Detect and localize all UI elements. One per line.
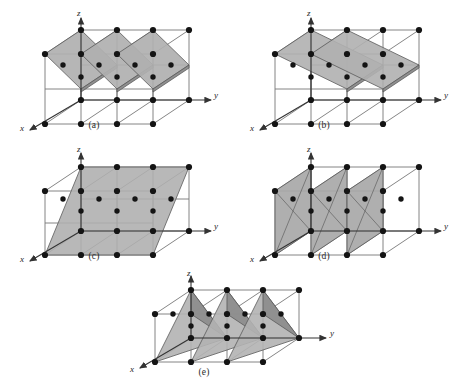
- panel-a-y-label: y: [213, 90, 218, 100]
- crystal-planes-figure: z y x (a): [0, 0, 463, 389]
- panel-b-caption: (b): [304, 120, 344, 130]
- panel-d-diagram: z y x: [238, 145, 453, 263]
- panel-c-x-label: x: [19, 254, 24, 264]
- panel-c-caption: (c): [74, 251, 114, 261]
- panel-d-z-label: z: [306, 144, 311, 154]
- panel-d-y-label: y: [443, 221, 448, 231]
- panel-b: z y x (b): [238, 8, 453, 133]
- panel-b-y-label: y: [443, 90, 448, 100]
- panel-a-caption: (a): [74, 120, 114, 130]
- panel-d-x-label: x: [249, 254, 254, 264]
- panel-d-caption: (d): [304, 251, 344, 261]
- panel-e-caption: (e): [184, 367, 224, 377]
- panel-b-x-label: x: [249, 123, 254, 133]
- panel-e-x-label: x: [129, 364, 134, 374]
- panel-a-diagram: z y x: [8, 8, 223, 133]
- panel-e: z y x (e): [118, 272, 353, 387]
- panel-a-x-label: x: [19, 123, 24, 133]
- panel-e-z-label: z: [186, 268, 191, 278]
- panel-c-z-label: z: [76, 144, 81, 154]
- panel-c-diagram: z y x: [8, 145, 223, 263]
- panel-d: z y x (d): [238, 145, 453, 263]
- panel-e-diagram: z y x: [118, 272, 353, 387]
- panel-a: z y x (a): [8, 8, 223, 133]
- panel-c-y-label: y: [213, 221, 218, 231]
- panel-c: z y x (c): [8, 145, 223, 263]
- panel-e-y-label: y: [329, 328, 334, 338]
- panel-a-z-label: z: [76, 8, 81, 18]
- panel-b-z-label: z: [306, 8, 311, 18]
- panel-b-diagram: z y x: [238, 8, 453, 133]
